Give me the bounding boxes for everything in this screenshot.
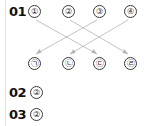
answer-key-page: 01 ① ② ③ ④ ㉠ ㉡ ㉢ ㉣ 02 ② 03 ②: [0, 0, 144, 126]
answer-03: ②: [30, 108, 43, 121]
match-top-item-1[interactable]: ①: [28, 5, 41, 18]
match-top-item-2[interactable]: ②: [62, 5, 75, 18]
match-bottom-item-4[interactable]: ㉣: [124, 57, 137, 70]
question-number-02: 02: [9, 86, 26, 99]
question-01-block: 01 ① ② ③ ④ ㉠ ㉡ ㉢ ㉣: [0, 0, 144, 80]
answer-02: ②: [30, 86, 43, 99]
match-bottom-item-1[interactable]: ㉠: [28, 57, 41, 70]
match-top-item-3[interactable]: ③: [93, 5, 106, 18]
match-bottom-item-2[interactable]: ㉡: [62, 57, 75, 70]
match-bottom-item-3[interactable]: ㉢: [93, 57, 106, 70]
match-top-item-4[interactable]: ④: [124, 5, 137, 18]
question-number-03: 03: [9, 108, 26, 121]
